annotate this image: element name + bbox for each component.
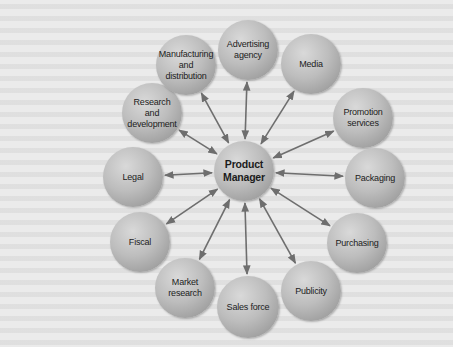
node-label: Marketresearch	[164, 277, 205, 299]
node-label: Advertisingagency	[223, 39, 273, 61]
node-label: Purchasing	[331, 238, 382, 249]
node-label: Sales force	[223, 302, 274, 313]
node-purchasing: Purchasing	[327, 213, 387, 273]
node-advertising-agency: Advertisingagency	[218, 20, 278, 80]
node-publicity: Publicity	[281, 261, 341, 321]
node-market-research: Marketresearch	[155, 258, 215, 318]
node-label: Legal	[118, 172, 147, 183]
arrow-promotion-services	[273, 131, 334, 158]
node-label: ProductManager	[219, 158, 269, 184]
node-manufacturing-and-distribution: Manufacturinganddistribution	[156, 35, 216, 95]
node-fiscal: Fiscal	[110, 212, 170, 272]
arrow-media	[261, 91, 294, 144]
node-legal: Legal	[103, 147, 163, 207]
node-label: Packaging	[351, 173, 399, 184]
arrow-research-and-development	[179, 130, 217, 154]
arrow-publicity	[260, 199, 296, 263]
node-sales-force: Sales force	[217, 276, 279, 338]
arrow-advertising-agency	[245, 82, 247, 139]
node-product-manager: ProductManager	[214, 141, 274, 201]
node-label: Fiscal	[125, 237, 155, 248]
node-packaging: Packaging	[345, 148, 405, 208]
arrow-fiscal	[166, 189, 217, 224]
arrow-manufacturing-and-distribution	[201, 93, 228, 143]
arrow-market-research	[199, 200, 229, 260]
node-label: Publicity	[291, 286, 331, 297]
arrow-packaging	[276, 173, 343, 177]
node-media: Media	[281, 34, 341, 94]
arrow-legal	[165, 173, 212, 176]
node-label: Manufacturinganddistribution	[155, 49, 217, 82]
arrow-sales-force	[245, 203, 247, 274]
arrow-purchasing	[271, 188, 330, 226]
node-label: Research anddevelopment	[122, 97, 182, 130]
node-label: Promotionservices	[339, 107, 386, 129]
node-promotion-services: Promotionservices	[333, 88, 393, 148]
node-label: Media	[295, 59, 327, 70]
